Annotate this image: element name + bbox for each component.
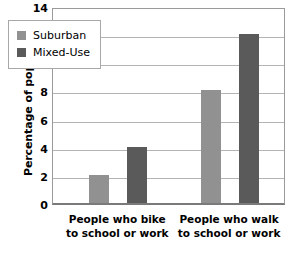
legend-label-suburban: Suburban bbox=[33, 30, 86, 41]
legend-item-mixed-use: Mixed-Use bbox=[17, 44, 92, 61]
x-category-label: People who biketo school or work bbox=[57, 212, 177, 240]
y-tick-label: 8 bbox=[20, 87, 48, 98]
bar-mixed-use-group-2 bbox=[239, 34, 259, 203]
legend-label-mixed-use: Mixed-Use bbox=[33, 47, 90, 58]
x-category-label-line: People who walk bbox=[169, 212, 289, 226]
legend-swatch-mixed-use bbox=[17, 48, 26, 57]
x-axis-category-labels: People who biketo school or workPeople w… bbox=[52, 212, 285, 252]
y-tick-label: 14 bbox=[20, 3, 48, 14]
bar-suburban-group-1 bbox=[89, 175, 109, 203]
legend-swatch-suburban bbox=[17, 31, 26, 40]
x-category-label-line: to school or work bbox=[169, 226, 289, 240]
y-tick-label: 2 bbox=[20, 171, 48, 182]
legend-item-suburban: Suburban bbox=[17, 27, 92, 44]
x-category-label: People who walkto school or work bbox=[169, 212, 289, 240]
x-category-label-line: to school or work bbox=[57, 226, 177, 240]
chart-legend: Suburban Mixed-Use bbox=[8, 20, 101, 69]
bar-chart: Percentage of population 02468101214 Sub… bbox=[0, 0, 299, 260]
x-category-label-line: People who bike bbox=[57, 212, 177, 226]
y-tick-label: 0 bbox=[20, 200, 48, 211]
bar-mixed-use-group-1 bbox=[127, 147, 147, 203]
bar-suburban-group-2 bbox=[201, 90, 221, 203]
y-tick-label: 6 bbox=[20, 115, 48, 126]
y-tick-label: 4 bbox=[20, 143, 48, 154]
